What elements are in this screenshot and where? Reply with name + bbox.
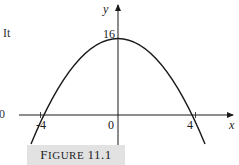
x-tick-4: 4: [187, 118, 193, 132]
caption-word: IGURE: [48, 149, 84, 161]
x-axis-label: x: [228, 118, 235, 132]
caption-number: 11.1: [87, 147, 111, 162]
caption-prefix: F: [40, 147, 48, 162]
x-tick-neg4: -4: [36, 118, 46, 132]
y-tick-16: 16: [103, 27, 115, 41]
parabola-figure: y x 16 -4 0 4: [0, 0, 239, 165]
figure-caption: FIGURE 11.1: [27, 147, 125, 163]
x-tick-0: 0: [108, 118, 114, 132]
y-axis-label: y: [102, 2, 109, 16]
